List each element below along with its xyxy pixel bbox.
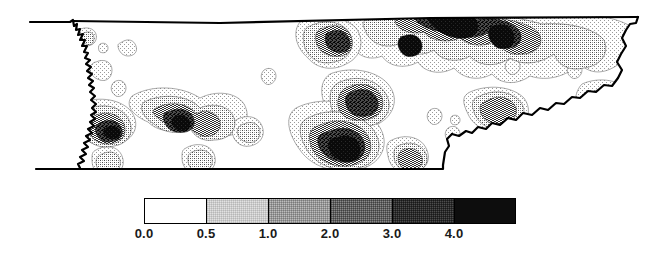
legend-tick-1.0: 1.0 [259, 226, 278, 241]
legend-swatch-1 [206, 198, 268, 224]
legend-tick-0.5: 0.5 [197, 226, 216, 241]
tennessee-southwest-corner [30, 22, 36, 169]
legend: 0.00.51.02.03.04.0 [0, 190, 648, 260]
contour-map-figure: 0.00.51.02.03.04.0 [0, 0, 648, 260]
legend-swatch-5 [454, 198, 516, 224]
legend-swatch-3 [330, 198, 392, 224]
legend-tick-2.0: 2.0 [321, 226, 340, 241]
legend-tick-4.0: 4.0 [445, 226, 464, 241]
legend-color-bar [144, 198, 516, 224]
tennessee-contour-map [0, 0, 648, 190]
map-svg [0, 0, 648, 190]
contour-fill-group [0, 0, 648, 190]
legend-swatch-2 [268, 198, 330, 224]
legend-tick-0.0: 0.0 [135, 226, 154, 241]
legend-tick-3.0: 3.0 [383, 226, 402, 241]
legend-swatch-0 [144, 198, 206, 224]
legend-tick-labels: 0.00.51.02.03.04.0 [0, 226, 648, 248]
legend-swatch-4 [392, 198, 454, 224]
